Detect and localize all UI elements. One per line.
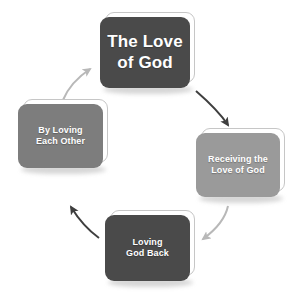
- node-label-line1: Loving: [132, 237, 162, 247]
- node-label-line2: God Back: [126, 248, 169, 258]
- node-label-line2: Each Other: [36, 136, 85, 146]
- arrow-left-to-top: [63, 69, 90, 100]
- arrow-right-to-bottom: [203, 206, 228, 239]
- node-by-loving-each-other[interactable]: By Loving Each Other: [18, 104, 103, 168]
- node-label-line2: Love of God: [211, 165, 265, 175]
- card-front: The Love of God: [100, 17, 190, 88]
- node-label-line1: The Love: [107, 32, 182, 51]
- node-loving-god-back[interactable]: Loving God Back: [105, 215, 190, 281]
- arrow-top-to-right: [196, 91, 228, 125]
- cycle-diagram: The Love of God Receiving the Love of Go…: [0, 0, 300, 304]
- node-label-line1: By Loving: [38, 125, 82, 135]
- node-label-line1: Receiving the: [208, 154, 268, 164]
- card-front: By Loving Each Other: [18, 104, 103, 168]
- node-love-of-god[interactable]: The Love of God: [100, 17, 190, 88]
- arrow-bottom-to-left: [71, 207, 99, 238]
- card-front: Loving God Back: [105, 215, 190, 281]
- card-front: Receiving the Love of God: [196, 133, 280, 197]
- node-label-line2: of God: [117, 53, 172, 72]
- node-receiving-the-love-of-god[interactable]: Receiving the Love of God: [196, 133, 280, 197]
